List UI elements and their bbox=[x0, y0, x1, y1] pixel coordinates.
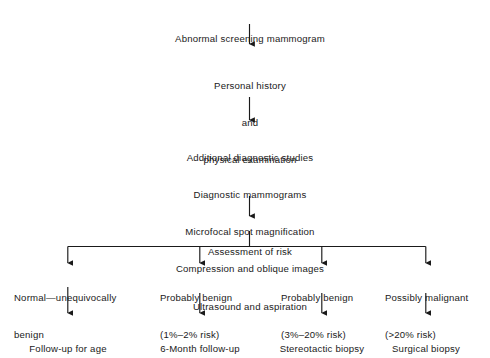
outcome-4-text: Surgical biopsy bbox=[392, 343, 460, 355]
outcome-surgical-biopsy: Surgical biopsy bbox=[392, 318, 460, 358]
node-title-text: Abnormal screening mammogram bbox=[175, 33, 325, 45]
outcome-stereotactic-biopsy: Stereotactic biopsy bbox=[280, 318, 365, 358]
branch-1-line-1: Normal—unequivocally bbox=[14, 292, 164, 304]
branch-4-line-1: Possibly malignant bbox=[385, 292, 490, 304]
outcome-3-text: Stereotactic biopsy bbox=[280, 343, 365, 355]
assessment-text: Assessment of risk bbox=[208, 246, 292, 258]
studies-line-2: Diagnostic mammograms bbox=[176, 189, 324, 201]
outcome-1-text: Follow-up for age bbox=[29, 343, 106, 355]
outcome-follow-up-for-age: Follow-up for age bbox=[29, 318, 106, 358]
outcome-6-month-follow-up: 6-Month follow-up bbox=[160, 318, 240, 358]
outcome-2-text: 6-Month follow-up bbox=[160, 343, 240, 355]
studies-line-1: Additional diagnostic studies bbox=[176, 152, 324, 164]
history-line-1: Personal history bbox=[204, 80, 297, 92]
branch-2-line-1: Probably benign bbox=[160, 292, 295, 304]
